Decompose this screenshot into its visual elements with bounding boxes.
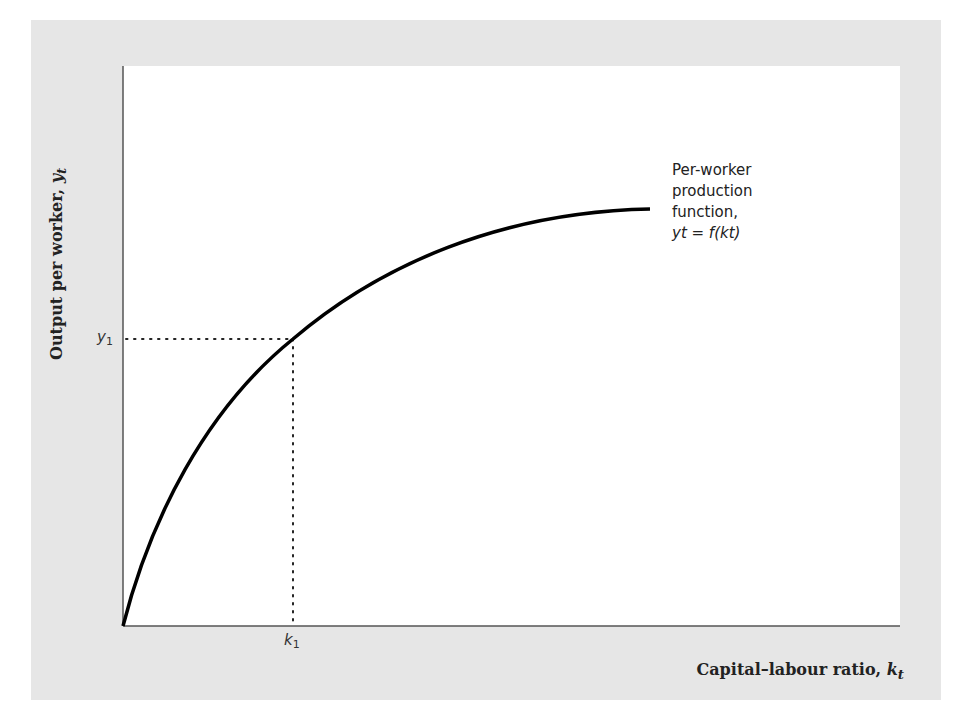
curve-equation: yt = f(kt) [672, 223, 753, 244]
chart-canvas [0, 0, 962, 719]
x-axis-label: Capital–labour ratio, kt [697, 660, 904, 682]
y-axis-label: Output per worker, yt [47, 168, 69, 360]
production-function-curve [123, 209, 650, 626]
k1-tick-label: k1 [284, 631, 300, 651]
curve-label: Per-worker production function, yt = f(k… [672, 160, 753, 244]
curve-label-line3: function, [672, 202, 753, 223]
y1-tick-label: y1 [97, 328, 113, 348]
curve-label-line1: Per-worker [672, 160, 753, 181]
curve-label-line2: production [672, 181, 753, 202]
